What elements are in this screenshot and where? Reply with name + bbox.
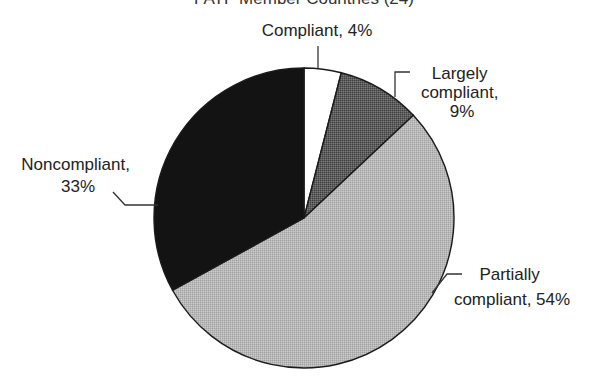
data-label-compliant-line1: Compliant, 4% <box>262 21 373 40</box>
data-label-compliant: Compliant, 4% <box>262 21 373 40</box>
data-label-partially-compliant-line1: Partially <box>479 265 540 284</box>
pie-slices <box>154 68 454 368</box>
pie-chart: FATF Member Countries (24) Compliant, 4%… <box>0 0 601 380</box>
data-label-largely-compliant-line3: 9% <box>450 102 475 121</box>
data-label-noncompliant: Noncompliant, 33% <box>21 155 134 196</box>
leader-line-noncompliant <box>113 192 158 205</box>
leader-line-largely-compliant <box>395 72 410 97</box>
data-label-noncompliant-line1: Noncompliant, <box>21 155 130 174</box>
chart-title: FATF Member Countries (24) <box>194 0 414 8</box>
data-label-noncompliant-line2: 33% <box>61 177 95 196</box>
data-label-largely-compliant-line2: compliant, <box>421 83 498 102</box>
data-label-partially-compliant: Partially compliant, 54% <box>454 265 570 309</box>
data-label-partially-compliant-line2: compliant, 54% <box>454 290 570 309</box>
data-label-largely-compliant-line1: Largely <box>432 64 488 83</box>
data-label-largely-compliant: Largely compliant, 9% <box>421 64 503 121</box>
